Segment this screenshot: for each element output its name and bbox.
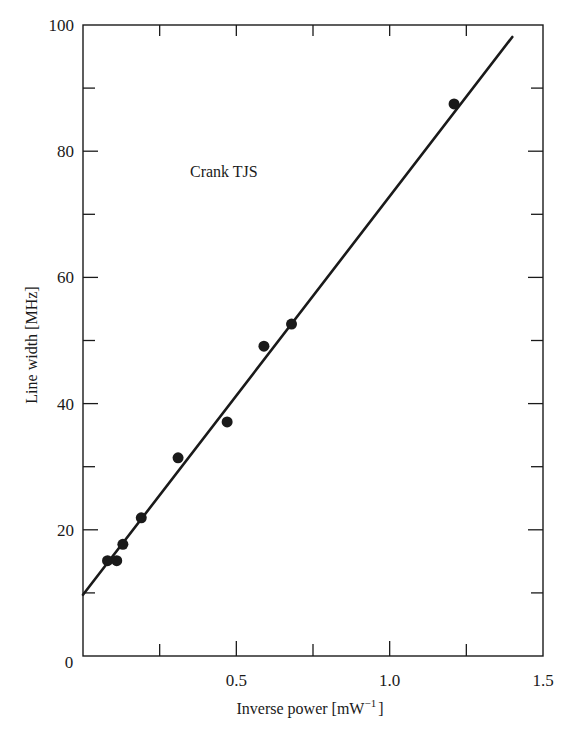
data-point bbox=[258, 341, 269, 352]
linear-fit-line bbox=[83, 37, 512, 595]
series-annotation: Crank TJS bbox=[190, 163, 258, 180]
y-tick-label: 60 bbox=[57, 268, 74, 287]
y-axis-label: Line width [MHz] bbox=[23, 286, 40, 403]
x-axis-label: Inverse power [mW−1] bbox=[237, 697, 384, 718]
y-tick-label: 40 bbox=[57, 395, 74, 414]
data-point bbox=[136, 512, 147, 523]
line-width-chart: 00.51.01.520406080100 Crank TJS Inverse … bbox=[0, 0, 569, 739]
x-tick-label: 1.0 bbox=[379, 671, 400, 690]
x-tick-label: 0 bbox=[65, 653, 74, 672]
data-point bbox=[222, 416, 233, 427]
data-point bbox=[173, 452, 184, 463]
data-point bbox=[449, 98, 460, 109]
data-point bbox=[111, 555, 122, 566]
tick-labels: 00.51.01.520406080100 bbox=[49, 16, 554, 690]
data-points bbox=[102, 98, 460, 566]
x-tick-label: 0.5 bbox=[226, 671, 247, 690]
y-tick-label: 20 bbox=[57, 521, 74, 540]
x-tick-label: 1.5 bbox=[532, 671, 553, 690]
y-tick-label: 80 bbox=[57, 142, 74, 161]
fit-line bbox=[83, 37, 512, 595]
plot-border bbox=[83, 25, 543, 656]
axis-ticks bbox=[83, 25, 543, 656]
data-point bbox=[117, 539, 128, 550]
y-tick-label: 100 bbox=[49, 16, 75, 35]
plot-frame bbox=[83, 25, 543, 656]
data-point bbox=[286, 319, 297, 330]
